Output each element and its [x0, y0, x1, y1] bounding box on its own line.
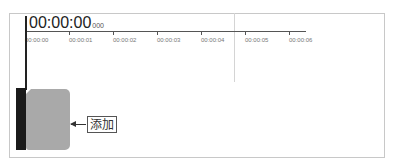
ruler-tick	[69, 31, 70, 35]
ruler-tick-label: 00:00:02	[113, 37, 136, 43]
arrow-left-icon	[71, 124, 86, 125]
ruler-tick	[157, 31, 158, 35]
media-clip[interactable]	[26, 89, 70, 150]
track-header-bar	[16, 88, 26, 150]
time-ruler[interactable]	[25, 31, 306, 32]
add-annotation-label: 添加	[87, 116, 117, 133]
ruler-tick-label: 00:00:05	[245, 37, 268, 43]
timecode-milliseconds: 000	[92, 22, 104, 29]
ruler-tick	[201, 31, 202, 35]
guide-line	[234, 13, 235, 82]
ruler-tick	[289, 31, 290, 35]
playhead-cursor[interactable]	[25, 16, 27, 90]
ruler-tick	[245, 31, 246, 35]
timecode-value: 00:00:00	[29, 14, 91, 31]
ruler-tick	[113, 31, 114, 35]
ruler-tick-label: 00:00:04	[201, 37, 224, 43]
ruler-tick-label: 00:00:06	[289, 37, 312, 43]
ruler-tick-label: 00:00:03	[157, 37, 180, 43]
ruler-tick-label: 00:00:01	[69, 37, 92, 43]
ruler-tick-label: 00:00:00	[25, 37, 48, 43]
